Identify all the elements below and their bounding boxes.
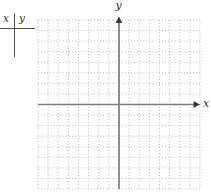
axes	[38, 17, 200, 190]
y-axis-label: y	[112, 0, 125, 12]
coordinate-plane	[0, 0, 211, 196]
worksheet-canvas: x y x y	[0, 0, 211, 196]
x-axis-label: x	[200, 98, 211, 110]
